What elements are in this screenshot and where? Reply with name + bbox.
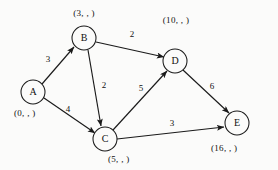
edge-c-e [117,127,224,139]
edge-weights-group: 3 4 2 2 5 3 6 [46,29,215,128]
node-label-a: A [29,86,37,97]
edge-weight-c-d: 5 [139,83,144,93]
node-tuple-b: (3, , ) [73,8,95,18]
node-tuple-a: (0, , ) [14,108,36,118]
graph-canvas: A B C D E (0, , ) (3, , ) (5, , ) (10, ,… [0,0,278,170]
node-tuple-d: (10, , ) [163,15,189,25]
node-tuple-e: (16, , ) [211,143,237,153]
nodes-group [21,26,249,151]
edge-weight-b-d: 2 [130,29,135,39]
edge-b-c [88,50,101,126]
edge-weight-d-e: 6 [210,81,215,91]
node-labels-group: A B C D E [29,32,240,144]
edge-c-d [113,71,167,130]
edge-weight-c-e: 3 [170,118,175,128]
node-tuple-c: (5, , ) [108,154,130,164]
node-label-c: C [102,133,109,144]
node-tuple-labels-group: (0, , ) (3, , ) (5, , ) (10, , ) (16, , … [14,8,237,164]
edges-group [42,42,229,139]
node-label-b: B [81,32,88,43]
edge-weight-a-b: 3 [46,54,51,64]
edge-weight-a-c: 4 [66,104,71,114]
node-label-d: D [171,55,178,66]
graph-diagram: A B C D E (0, , ) (3, , ) (5, , ) (10, ,… [0,0,278,170]
edge-b-d [96,42,164,57]
edge-a-b [42,47,74,84]
edge-d-e [183,70,229,113]
node-label-e: E [234,117,240,128]
edge-weight-b-c: 2 [102,80,107,90]
